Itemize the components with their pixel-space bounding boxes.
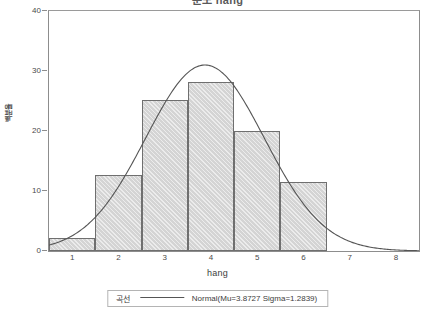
y-tick-label: 0 (0, 246, 48, 256)
x-tick-label: 7 (338, 253, 362, 262)
histogram-bar (280, 182, 326, 251)
x-tick-label: 6 (291, 253, 315, 262)
x-tick-label: 5 (245, 253, 269, 262)
x-tick-label: 8 (384, 253, 408, 262)
legend-line-swatch-icon (140, 297, 184, 298)
legend-entry-label: Normal(Mu=3.8727 Sigma=1.2839) (192, 294, 317, 303)
x-tick-label: 2 (106, 253, 130, 262)
x-axis-label: hang (0, 268, 435, 278)
x-tick-label: 4 (199, 253, 223, 262)
histogram-bar (142, 100, 188, 251)
x-tick-label: 1 (60, 253, 84, 262)
y-tick-label: 40 (0, 6, 48, 16)
histogram-chart: 분포 hang 백분율 403020100 12345678 hang 곡선 N… (0, 0, 435, 311)
y-tick-label: 20 (0, 126, 48, 136)
x-tick-label: 3 (153, 253, 177, 262)
histogram-bar (234, 131, 280, 251)
plot-area (48, 10, 420, 252)
y-tick-label: 30 (0, 66, 48, 76)
chart-title: 분포 hang (0, 0, 435, 7)
histogram-bars (49, 11, 419, 251)
histogram-bar (49, 238, 95, 251)
histogram-bar (95, 175, 141, 251)
y-tick-label: 10 (0, 186, 48, 196)
chart-legend: 곡선 Normal(Mu=3.8727 Sigma=1.2839) (107, 290, 328, 307)
legend-group-label: 곡선 (116, 293, 130, 304)
histogram-bar (188, 82, 234, 251)
